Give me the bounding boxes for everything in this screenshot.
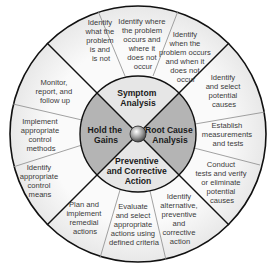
- segment-label-12: Monitor, report, and follow up: [36, 78, 75, 105]
- hub-sphere: [130, 126, 146, 142]
- problem-solving-wheel: Symptom Analysis Root Cause Analysis Pre…: [0, 0, 277, 265]
- quadrant-label-top: Symptom Analysis: [117, 88, 159, 108]
- quadrant-label-right: Root Cause Analysis: [145, 125, 195, 145]
